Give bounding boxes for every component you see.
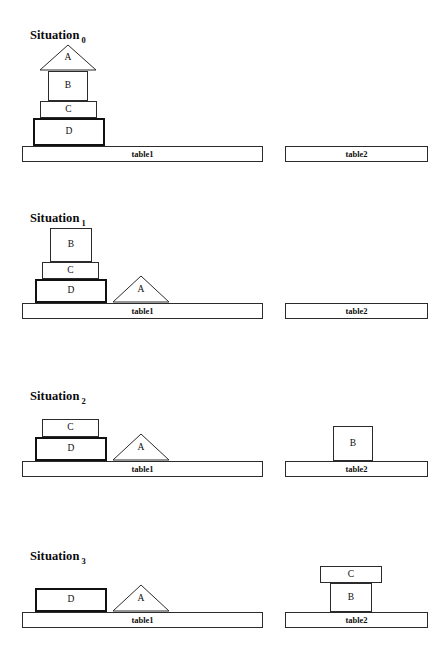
block-b-label: B (68, 240, 74, 250)
table2-surface: table2 (285, 146, 428, 162)
situation-caption-word: Situation (30, 389, 80, 403)
block-d: D (33, 118, 105, 146)
block-d-label: D (68, 444, 75, 454)
block-d-label: D (68, 595, 75, 605)
table2-label: table2 (345, 465, 367, 474)
situation-caption-word: Situation (30, 28, 80, 42)
block-d: D (35, 437, 107, 461)
block-b: B (330, 583, 372, 612)
block-b-label: B (65, 81, 71, 91)
block-c: C (320, 566, 382, 583)
table1-surface: table1 (22, 612, 263, 628)
block-b: B (333, 426, 373, 461)
block-b: B (50, 228, 92, 262)
block-a-label: A (112, 285, 170, 295)
situation-caption-index: 0 (80, 35, 86, 45)
block-a: A (39, 44, 97, 71)
table1-surface: table1 (22, 461, 263, 477)
situation-caption-index: 2 (80, 396, 86, 406)
block-b-label: B (350, 439, 356, 449)
block-c-label: C (348, 570, 354, 580)
block-b: B (48, 71, 88, 101)
block-b-label: B (348, 593, 354, 603)
block-c: C (42, 262, 99, 279)
situation-caption: Situation2 (30, 389, 86, 406)
block-c: C (40, 101, 97, 118)
block-c-label: C (67, 266, 73, 276)
situation-caption: Situation3 (30, 549, 86, 566)
table2-surface: table2 (285, 303, 428, 319)
table2-label: table2 (345, 150, 367, 159)
block-d-label: D (68, 286, 75, 296)
block-a: A (112, 433, 170, 461)
block-a-label: A (112, 443, 170, 453)
table1-label: table1 (131, 465, 153, 474)
block-a: A (112, 275, 170, 303)
block-c: C (42, 419, 99, 437)
situation-caption-index: 3 (80, 556, 86, 566)
block-d-label: D (66, 127, 73, 137)
table2-label: table2 (345, 307, 367, 316)
table2-label: table2 (345, 616, 367, 625)
block-a: A (112, 584, 170, 612)
table2-surface: table2 (285, 461, 428, 477)
block-c-label: C (65, 105, 71, 115)
table2-surface: table2 (285, 612, 428, 628)
table1-surface: table1 (22, 303, 263, 319)
situation-caption: Situation0 (30, 28, 86, 45)
block-a-label: A (39, 53, 97, 63)
situation-caption: Situation1 (30, 211, 86, 228)
situation-caption-word: Situation (30, 211, 80, 225)
table1-label: table1 (131, 150, 153, 159)
table1-label: table1 (131, 307, 153, 316)
block-c-label: C (67, 423, 73, 433)
table1-surface: table1 (22, 146, 263, 162)
block-d: D (35, 588, 107, 612)
block-a-label: A (112, 594, 170, 604)
table1-label: table1 (131, 616, 153, 625)
situation-caption-index: 1 (80, 218, 86, 228)
block-d: D (35, 279, 107, 303)
situation-caption-word: Situation (30, 549, 80, 563)
